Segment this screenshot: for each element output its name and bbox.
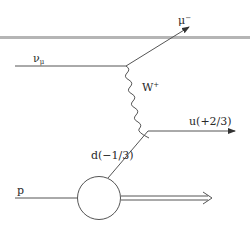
muon-line [126,27,189,66]
proton-label: p [17,184,24,197]
muon-label: μ− [178,14,191,27]
proton-blob [78,177,121,220]
feynman-diagram: νμ μ− W+ u(+2/3) d(−1/3) p [0,0,250,234]
w-boson-propagator [125,66,149,138]
u-quark-label: u(+2/3) [189,115,232,128]
d-quark-label: d(−1/3) [91,149,134,162]
neutrino-label: νμ [33,52,45,66]
separator-bar [0,36,250,39]
remnant-double-arrow [121,192,212,204]
w-boson-label: W+ [142,81,159,94]
